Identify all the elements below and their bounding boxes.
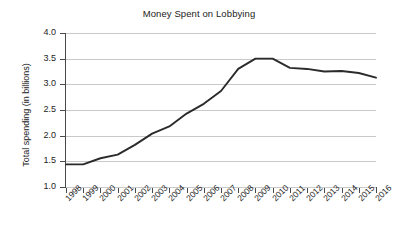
y-tick-label: 2.0	[16, 130, 56, 140]
y-tick-label: 1.0	[16, 181, 56, 191]
lobbying-line-chart: Money Spent on Lobbying Total spending (…	[0, 0, 398, 235]
y-tick-mark	[60, 187, 65, 188]
chart-title: Money Spent on Lobbying	[0, 8, 398, 19]
y-tick-mark	[60, 110, 65, 111]
y-tick-label: 3.5	[16, 53, 56, 63]
y-tick-mark	[60, 84, 65, 85]
y-tick-mark	[60, 161, 65, 162]
y-tick-mark	[60, 59, 65, 60]
plot-area	[66, 33, 376, 187]
y-tick-label: 2.5	[16, 104, 56, 114]
y-tick-mark	[60, 33, 65, 34]
y-tick-label: 4.0	[16, 27, 56, 37]
data-line-series	[66, 33, 376, 187]
y-tick-label: 1.5	[16, 155, 56, 165]
y-tick-label: 3.0	[16, 78, 56, 88]
x-tick-label: 2016	[373, 183, 393, 203]
y-tick-mark	[60, 136, 65, 137]
